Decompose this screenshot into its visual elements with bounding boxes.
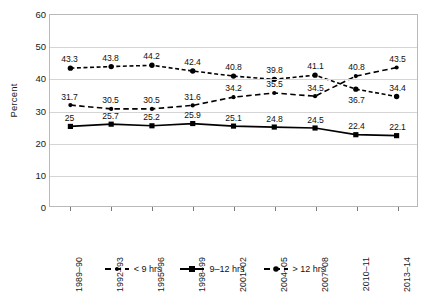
x-tick-mark (398, 207, 399, 211)
x-tick-mark (111, 207, 112, 211)
data-point-label: 36.7 (348, 95, 364, 105)
data-point-label: 24.8 (266, 114, 282, 124)
legend-swatch-1 (179, 264, 205, 274)
legend-swatch-2 (263, 264, 289, 274)
data-point-label: 34.4 (389, 83, 405, 93)
gridline (50, 144, 417, 145)
data-point-label: 43.5 (389, 54, 405, 64)
data-point-label: 24.5 (307, 115, 323, 125)
chart-legend: < 9 hrs9–12 hrs> 12 hrs (0, 264, 429, 274)
legend-item-1[interactable]: 9–12 hrs (179, 264, 244, 274)
x-tick-mark (234, 207, 235, 211)
data-point-label: 25.7 (102, 111, 118, 121)
data-point-label: 30.5 (143, 95, 159, 105)
data-point-label: 35.5 (266, 79, 282, 89)
data-point-label: 39.8 (266, 65, 282, 75)
x-tick-label: 1992–93 (115, 257, 125, 292)
y-tick-label: 40 (24, 73, 46, 84)
data-point (108, 64, 113, 69)
x-tick-label: 2013–14 (402, 257, 412, 292)
data-point-label: 40.8 (225, 62, 241, 72)
data-point-label: 42.4 (184, 57, 200, 67)
x-tick-label: 2001–02 (238, 257, 248, 292)
data-point-label: 43.8 (102, 53, 118, 63)
data-point (353, 132, 358, 137)
x-axis-tick-labels: 1989–901992–931995–961998–992001–022004–… (49, 207, 418, 267)
data-point-label: 34.5 (307, 83, 323, 93)
y-tick-label: 10 (24, 169, 46, 180)
data-point (149, 63, 154, 68)
y-tick-label: 50 (24, 41, 46, 52)
data-point (394, 133, 399, 138)
y-tick-label: 20 (24, 137, 46, 148)
data-point (150, 107, 154, 111)
data-point (313, 94, 317, 98)
data-point (191, 103, 195, 107)
data-point-label: 40.8 (348, 62, 364, 72)
data-point-label: 25 (65, 113, 74, 123)
data-point (312, 72, 317, 77)
x-tick-mark (275, 207, 276, 211)
x-tick-mark (152, 207, 153, 211)
gridline (50, 79, 417, 80)
data-point (353, 87, 358, 92)
data-point (312, 125, 317, 130)
data-point-label: 25.1 (225, 113, 241, 123)
data-point-label: 25.9 (184, 110, 200, 120)
data-point (354, 74, 358, 78)
data-point-label: 31.6 (184, 92, 200, 102)
data-point (272, 91, 276, 95)
x-tick-mark (316, 207, 317, 211)
data-point-label: 25.2 (143, 112, 159, 122)
data-point (231, 95, 235, 99)
y-tick-label: 60 (24, 9, 46, 20)
data-point (149, 123, 154, 128)
y-tick-label: 0 (24, 202, 46, 213)
x-tick-label: 2010–11 (361, 257, 371, 291)
x-tick-mark (193, 207, 194, 211)
data-point (231, 124, 236, 129)
x-tick-label: 2004–05 (279, 257, 289, 292)
y-tick-label: 30 (24, 105, 46, 116)
data-point-label: 43.3 (61, 54, 77, 64)
data-point (68, 103, 72, 107)
data-point-label: 34.2 (225, 83, 241, 93)
line-chart: Percent 0102030405060 1989–901992–931995… (0, 0, 429, 295)
data-point-label: 44.2 (143, 51, 159, 61)
data-point-label: 22.4 (348, 121, 364, 131)
data-point (231, 73, 236, 78)
y-axis-tick-labels: 0102030405060 (10, 0, 46, 295)
data-point (190, 121, 195, 126)
data-point-label: 22.1 (389, 122, 405, 132)
data-point-label: 31.7 (61, 92, 77, 102)
legend-label-2: > 12 hrs (293, 264, 326, 274)
data-point (68, 65, 73, 70)
data-point-label: 30.5 (102, 95, 118, 105)
data-point (68, 124, 73, 129)
data-point (109, 122, 114, 127)
gridline (50, 47, 417, 48)
x-tick-mark (70, 207, 71, 211)
legend-label-0: < 9 hrs (134, 264, 162, 274)
x-tick-label: 1998–99 (197, 257, 207, 292)
legend-item-2[interactable]: > 12 hrs (263, 264, 326, 274)
x-tick-label: 2007–08 (320, 257, 330, 292)
data-point (190, 68, 195, 73)
data-point (394, 94, 399, 99)
x-tick-mark (357, 207, 358, 211)
data-point-label: 41.1 (307, 61, 323, 71)
legend-label-1: 9–12 hrs (209, 264, 244, 274)
x-tick-label: 1989–90 (74, 257, 84, 292)
data-point (395, 65, 399, 69)
gridline (50, 176, 417, 177)
legend-swatch-0 (104, 264, 130, 274)
x-tick-label: 1995–96 (156, 257, 166, 292)
data-point (272, 124, 277, 129)
legend-item-0[interactable]: < 9 hrs (104, 264, 162, 274)
